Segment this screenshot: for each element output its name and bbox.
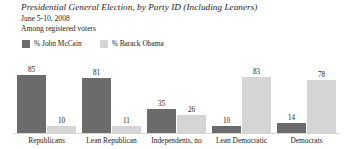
chart-page: Presidential General Election, by Party … [0, 0, 347, 149]
bar-value-label: 81 [93, 69, 100, 77]
category-label: Democrats [274, 135, 339, 149]
bar-group: 1083 [209, 56, 274, 133]
bar-rect [82, 78, 111, 133]
legend-item-mccain: % John McCain [22, 40, 82, 48]
legend-swatch-obama [100, 40, 108, 48]
legend-swatch-mccain [22, 40, 30, 48]
bar-obama[interactable]: 78 [307, 80, 336, 133]
bar-rect [277, 123, 306, 133]
bar-mccain[interactable]: 10 [212, 126, 241, 133]
bar-mccain[interactable]: 35 [147, 109, 176, 133]
category-label: Lean Democratic [209, 135, 274, 149]
chart-legend: % John McCain % Barack Obama [22, 40, 182, 48]
bar-group: 3526 [144, 56, 209, 133]
plot-area: 85108111352610831478 [0, 56, 347, 134]
bar-rect [147, 109, 176, 133]
bar-value-label: 83 [253, 68, 260, 76]
bar-obama[interactable]: 10 [47, 126, 76, 133]
bar-rect [112, 126, 141, 133]
bar-obama[interactable]: 26 [177, 115, 206, 133]
bar-rect [47, 126, 76, 133]
chart-title: Presidential General Election, by Party … [21, 2, 341, 13]
legend-label-obama: % Barack Obama [112, 40, 164, 48]
bar-group: 8111 [79, 56, 144, 133]
legend-label-mccain: % John McCain [34, 40, 82, 48]
bar-group: 8510 [14, 56, 79, 133]
category-label: Independents, no [144, 135, 209, 149]
bar-rect [17, 75, 46, 133]
bar-obama[interactable]: 83 [242, 77, 271, 133]
bar-value-label: 14 [288, 114, 295, 122]
bar-value-label: 11 [123, 117, 130, 125]
bar-value-label: 10 [58, 117, 65, 125]
bar-group: 1478 [274, 56, 339, 133]
bar-mccain[interactable]: 81 [82, 78, 111, 133]
bar-obama[interactable]: 11 [112, 126, 141, 133]
chart-header: Presidential General Election, by Party … [21, 2, 341, 34]
bar-value-label: 35 [158, 100, 165, 108]
bar-value-label: 85 [28, 66, 35, 74]
chart-subtitle-population: Among registered voters [21, 24, 341, 34]
bar-value-label: 78 [318, 71, 325, 79]
category-label: Republicans [14, 135, 79, 149]
bar-rect [242, 77, 271, 133]
category-axis: RepublicansLean RepublicanIndependents, … [14, 135, 339, 149]
axis-baseline [14, 133, 339, 134]
bar-groups: 85108111352610831478 [14, 56, 339, 133]
bar-mccain[interactable]: 85 [17, 75, 46, 133]
bar-value-label: 10 [223, 117, 230, 125]
legend-item-obama: % Barack Obama [100, 40, 164, 48]
bar-rect [212, 126, 241, 133]
bar-rect [177, 115, 206, 133]
category-label: Lean Republican [79, 135, 144, 149]
bar-mccain[interactable]: 14 [277, 123, 306, 133]
bar-rect [307, 80, 336, 133]
bar-value-label: 26 [188, 106, 195, 114]
chart-subtitle-date: June 5-10, 2008 [21, 14, 341, 24]
